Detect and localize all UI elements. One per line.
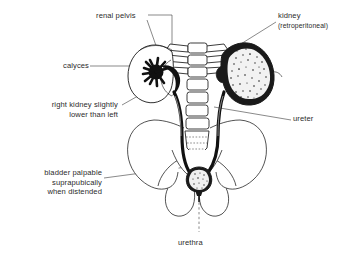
label-bladder-palpable: bladder palpable suprapubically when dis… bbox=[8, 168, 102, 197]
label-urethra-text: urethra bbox=[178, 238, 203, 247]
label-renal-pelvis: renal pelvis bbox=[96, 11, 136, 21]
label-right-kidney-position: right kidney slightly lower than left bbox=[14, 100, 118, 119]
label-right-kidney-line2: lower than left bbox=[69, 110, 118, 119]
vertebra-2 bbox=[188, 55, 207, 65]
label-kidney: kidney (retroperitoneal) bbox=[278, 11, 328, 30]
label-bladder-line2: suprapubically bbox=[52, 178, 102, 187]
vertebra-3 bbox=[188, 67, 207, 77]
vertebra-4 bbox=[187, 79, 208, 90]
pubic-ramus-right bbox=[165, 188, 194, 216]
label-calyces: calyces bbox=[63, 61, 89, 71]
label-urethra: urethra bbox=[178, 238, 203, 248]
label-kidney-text: kidney bbox=[278, 11, 301, 20]
anatomy-figure: renal pelvis kidney (retroperitoneal) ca… bbox=[0, 0, 343, 258]
pubic-ramus-left bbox=[199, 188, 228, 216]
label-calyces-text: calyces bbox=[63, 61, 89, 70]
leader-renal-pelvis-a bbox=[148, 15, 172, 46]
label-ureter-text: ureter bbox=[293, 114, 313, 123]
vertebra-7 bbox=[186, 118, 209, 129]
vertebra-5 bbox=[187, 92, 208, 103]
label-right-kidney-line1: right kidney slightly bbox=[52, 100, 118, 109]
left-kidney-stippled bbox=[216, 43, 282, 105]
label-renal-pelvis-text: renal pelvis bbox=[96, 11, 136, 20]
anatomy-illustration bbox=[0, 0, 343, 258]
label-bladder-line3: when distended bbox=[47, 187, 102, 196]
leader-ureter bbox=[214, 107, 291, 120]
label-ureter: ureter bbox=[293, 114, 313, 124]
label-kidney-subtext: (retroperitoneal) bbox=[278, 21, 328, 30]
vertebra-6 bbox=[186, 105, 208, 116]
label-bladder-line1: bladder palpable bbox=[44, 168, 102, 177]
vertebra-1 bbox=[188, 43, 207, 53]
